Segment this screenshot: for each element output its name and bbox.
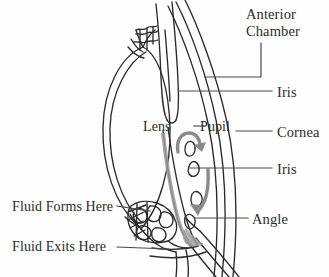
ciliary-cell-e: [152, 228, 166, 242]
label-cornea: Cornea: [277, 124, 319, 141]
label-anterior-chamber-line1: Anterior: [246, 6, 296, 22]
sclera-limbus-3: [190, 245, 216, 277]
ciliary-cell-c: [159, 212, 173, 228]
sclera-tail: [176, 252, 177, 277]
zonule-top-3: [128, 47, 144, 58]
iris-upper-leaf-left: [156, 4, 167, 120]
sclera-tail-2: [186, 250, 188, 277]
label-fluid-forms-here: Fluid Forms Here: [12, 199, 113, 216]
leader-fluid-exits: [117, 247, 168, 249]
label-angle: Angle: [252, 211, 288, 228]
trabecular-oval-2: [188, 162, 199, 177]
iris-upper-leaf-right: [172, 2, 179, 120]
trabecular-oval-1: [185, 141, 195, 156]
label-iris-mid: Iris: [277, 161, 297, 178]
label-fluid-exits-here: Fluid Exits Here: [12, 239, 106, 256]
label-pupil: Pupil: [200, 119, 230, 136]
label-lens: Lens: [143, 119, 171, 136]
sclera-limbus-1: [200, 231, 239, 277]
label-anterior-chamber: AnteriorChamber: [246, 6, 300, 40]
eye-anatomy-diagram: AnteriorChamber Iris Cornea Iris Angle L…: [0, 0, 329, 277]
angle-shading: [183, 228, 204, 246]
label-iris-top: Iris: [277, 84, 297, 101]
label-anterior-chamber-line2: Chamber: [246, 23, 300, 39]
lens-capsule-inner: [110, 52, 146, 222]
sclera-base-lower: [150, 252, 206, 258]
pupil-flow-arrow: [178, 133, 200, 152]
